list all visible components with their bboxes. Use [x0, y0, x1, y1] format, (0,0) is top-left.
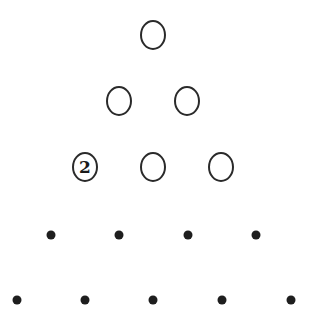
circle-r2-c2 — [174, 86, 200, 116]
dot-r4-c1 — [47, 231, 56, 240]
circle-r2-c1 — [106, 86, 132, 116]
dot-r4-c3 — [184, 231, 193, 240]
dot-r4-c2 — [115, 231, 124, 240]
dot-r5-c2 — [81, 296, 90, 305]
circle-r1-c1 — [140, 20, 166, 50]
dot-r5-c4 — [218, 296, 227, 305]
dot-r4-c4 — [252, 231, 261, 240]
circle-r3-c1: 2 — [72, 152, 98, 182]
circle-r3-c3 — [208, 152, 234, 182]
dot-r5-c3 — [149, 296, 158, 305]
dot-r5-c1 — [13, 296, 22, 305]
dot-r5-c5 — [287, 296, 296, 305]
circle-r3-c2 — [140, 152, 166, 182]
triangle-diagram: 2 — [0, 0, 309, 321]
